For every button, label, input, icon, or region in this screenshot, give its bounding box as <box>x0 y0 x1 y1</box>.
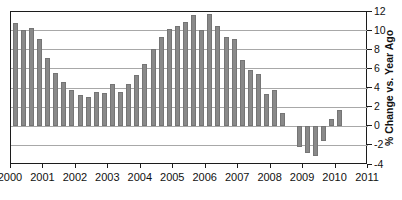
bar <box>199 30 204 126</box>
y-tick <box>367 125 372 126</box>
x-tick-label: 2007 <box>219 171 255 183</box>
bar <box>29 28 34 126</box>
y-tick <box>367 30 372 31</box>
x-tick-label: 2010 <box>317 171 353 183</box>
x-tick <box>302 164 303 168</box>
bar <box>329 119 334 126</box>
bar <box>118 92 123 125</box>
bar <box>13 23 18 125</box>
bar <box>126 84 131 126</box>
x-tick <box>205 164 206 168</box>
x-tick <box>10 164 11 168</box>
x-tick <box>172 164 173 168</box>
x-tick-label: 2009 <box>284 171 320 183</box>
bar <box>167 29 172 126</box>
x-tick <box>140 164 141 168</box>
bar <box>256 74 261 126</box>
bar <box>53 73 58 126</box>
bar <box>240 60 245 126</box>
x-tick <box>367 164 368 168</box>
bar <box>159 37 164 126</box>
x-tick-label: 2006 <box>187 171 223 183</box>
bar <box>191 15 196 126</box>
bar <box>183 22 188 125</box>
x-tick <box>107 164 108 168</box>
plot-area <box>10 11 367 164</box>
x-tick-label: 2004 <box>122 171 158 183</box>
bar <box>102 93 107 126</box>
bar <box>61 82 66 126</box>
bar <box>37 39 42 126</box>
bar <box>264 94 269 126</box>
bar <box>134 75 139 126</box>
bar <box>69 90 74 125</box>
bar <box>232 39 237 126</box>
x-tick <box>270 164 271 168</box>
y-tick-label: 12 <box>374 5 396 17</box>
bar <box>110 84 115 126</box>
bar <box>207 14 212 126</box>
bar <box>313 126 318 157</box>
bar <box>86 97 91 126</box>
bar <box>45 58 50 126</box>
bar <box>321 126 326 141</box>
bar <box>215 26 220 125</box>
bar <box>272 90 277 125</box>
bar <box>248 70 253 125</box>
y-tick <box>367 68 372 69</box>
bar <box>94 92 99 125</box>
x-tick-label: 2003 <box>89 171 125 183</box>
x-tick-label: 2005 <box>154 171 190 183</box>
x-tick-label: 2011 <box>349 171 385 183</box>
y-tick <box>367 49 372 50</box>
x-tick <box>237 164 238 168</box>
gridline <box>11 68 368 69</box>
y-tick <box>367 106 372 107</box>
bar <box>305 126 310 154</box>
bar <box>142 64 147 126</box>
x-tick-label: 2001 <box>24 171 60 183</box>
y-axis-label: % Change vs. Year Ago <box>383 25 397 151</box>
bar <box>224 37 229 126</box>
x-tick-label: 2002 <box>57 171 93 183</box>
y-tick <box>367 11 372 12</box>
bar <box>337 110 342 125</box>
bar <box>297 126 302 147</box>
bar <box>21 30 26 126</box>
bar <box>78 95 83 126</box>
x-tick <box>335 164 336 168</box>
y-tick-label: -4 <box>374 158 396 170</box>
bar <box>175 26 180 125</box>
bar <box>280 113 285 125</box>
y-tick <box>367 164 372 165</box>
gridline <box>11 49 368 50</box>
x-tick <box>75 164 76 168</box>
bar <box>151 49 156 126</box>
x-tick <box>42 164 43 168</box>
x-tick-label: 2008 <box>252 171 288 183</box>
gridline <box>11 30 368 31</box>
bar-chart: 2000200120022003200420052006200720082009… <box>0 0 402 200</box>
y-tick <box>367 87 372 88</box>
y-tick <box>367 144 372 145</box>
